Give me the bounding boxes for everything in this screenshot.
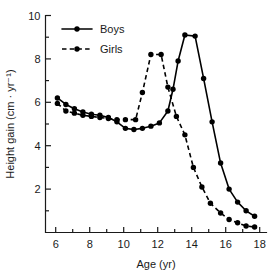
- data-point-marker: [106, 116, 111, 121]
- data-point-marker: [170, 87, 175, 92]
- x-tick-label: 8: [87, 238, 93, 250]
- x-tick-label: 18: [254, 238, 266, 250]
- data-point-marker: [192, 33, 197, 38]
- data-point-marker: [201, 76, 206, 81]
- x-axis-title: Age (yr): [136, 258, 175, 270]
- data-point-marker: [175, 58, 180, 63]
- data-point-marker: [123, 117, 128, 122]
- chart-container: 246810 681012141618 BoysGirls Age (yr) H…: [0, 0, 272, 276]
- x-tick-label: 10: [118, 238, 130, 250]
- y-tick-label: 4: [34, 140, 40, 152]
- x-tick-label: 12: [152, 238, 164, 250]
- data-point-marker: [199, 184, 204, 189]
- x-tick-label: 16: [220, 238, 232, 250]
- data-point-marker: [226, 186, 231, 191]
- data-point-marker: [226, 217, 231, 222]
- data-point-marker: [235, 199, 240, 204]
- data-point-marker: [63, 102, 68, 107]
- y-tick-label: 8: [34, 53, 40, 65]
- y-axis-title: Height gain (cm · yr⁻¹): [4, 69, 16, 178]
- data-point-marker: [114, 117, 119, 122]
- data-point-marker: [97, 115, 102, 120]
- data-point-marker: [158, 52, 163, 57]
- data-point-marker: [218, 160, 223, 165]
- data-point-marker: [148, 123, 153, 128]
- data-point-marker: [209, 119, 214, 124]
- data-point-marker: [252, 214, 257, 219]
- data-point-marker: [63, 108, 68, 113]
- data-point-marker: [191, 165, 196, 170]
- data-point-marker: [55, 95, 60, 100]
- data-point-marker: [140, 90, 145, 95]
- legend-marker-swatch: [74, 46, 79, 51]
- chart-background: [0, 0, 272, 276]
- data-point-marker: [123, 126, 128, 131]
- x-tick-label: 14: [186, 238, 198, 250]
- legend-marker-swatch: [74, 26, 79, 31]
- data-point-marker: [208, 201, 213, 206]
- data-point-marker: [174, 114, 179, 119]
- y-tick-label: 10: [28, 10, 40, 22]
- data-point-marker: [165, 84, 170, 89]
- data-point-marker: [235, 220, 240, 225]
- data-point-marker: [182, 132, 187, 137]
- data-point-marker: [243, 223, 248, 228]
- data-point-marker: [165, 108, 170, 113]
- height-velocity-line-chart: 246810 681012141618 BoysGirls Age (yr) H…: [0, 0, 272, 276]
- x-tick-label: 6: [53, 238, 59, 250]
- data-point-marker: [55, 101, 60, 106]
- data-point-marker: [140, 126, 145, 131]
- data-point-marker: [131, 127, 136, 132]
- legend-label: Boys: [100, 23, 125, 35]
- data-point-marker: [148, 52, 153, 57]
- data-point-marker: [243, 208, 248, 213]
- y-tick-label: 2: [34, 183, 40, 195]
- data-point-marker: [133, 117, 138, 122]
- data-point-marker: [80, 113, 85, 118]
- data-point-marker: [72, 110, 77, 115]
- data-point-marker: [252, 224, 257, 229]
- data-point-marker: [89, 114, 94, 119]
- data-point-marker: [218, 210, 223, 215]
- data-point-marker: [182, 32, 187, 37]
- data-point-marker: [157, 120, 162, 125]
- legend-label: Girls: [100, 43, 123, 55]
- y-tick-label: 6: [34, 96, 40, 108]
